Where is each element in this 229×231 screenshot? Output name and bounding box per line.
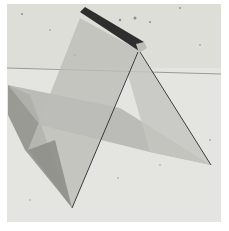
photograph xyxy=(0,0,229,231)
sculpture-photo xyxy=(0,0,229,231)
